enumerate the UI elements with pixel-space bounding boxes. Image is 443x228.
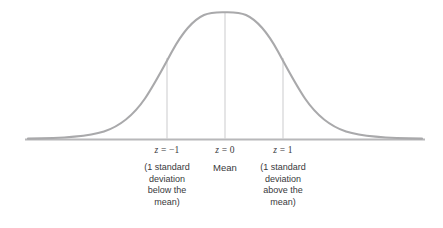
z-value-label-z-plus-one: z = 1 [240,145,326,156]
marker-label-z-plus-one: z = 1 (1 standard deviation above the me… [240,145,326,208]
caption-line: mean) [132,197,202,209]
caption-line: mean) [248,197,318,209]
bell-curve-figure: z = −1 (1 standard deviation below the m… [0,0,443,228]
caption-line: (1 standard [248,162,318,174]
caption-line: deviation [248,174,318,186]
caption-line: above the [248,185,318,197]
caption-line: deviation [132,174,202,186]
caption-line: below the [132,185,202,197]
z-value-text: = 1 [277,145,293,155]
normal-curve-plot [0,0,443,228]
z-value-text: = −1 [158,145,179,155]
z-value-text: = 0 [219,145,235,155]
caption-z-plus-one: (1 standard deviation above the mean) [248,162,318,208]
